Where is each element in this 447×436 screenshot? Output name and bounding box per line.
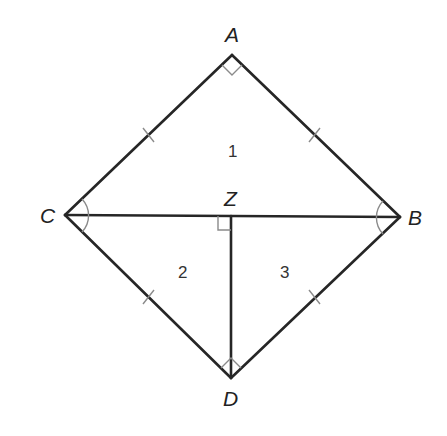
vertex-label-A: A [223, 23, 239, 46]
segment-CB [65, 215, 400, 217]
vertex-label-D: D [223, 387, 238, 410]
vertex-label-Z: Z [223, 187, 238, 210]
right-angle-mark-Z [218, 216, 231, 230]
geometry-diagram: A C B Z D 1 2 3 [0, 0, 447, 436]
region-label-1: 1 [228, 142, 237, 161]
segment-AB [232, 55, 400, 217]
region-label-2: 2 [178, 263, 187, 282]
region-label-3: 3 [280, 263, 289, 282]
segment-CD [65, 215, 231, 378]
vertex-label-B: B [408, 206, 422, 229]
vertex-label-C: C [40, 204, 56, 227]
right-angle-mark-A [222, 65, 242, 75]
